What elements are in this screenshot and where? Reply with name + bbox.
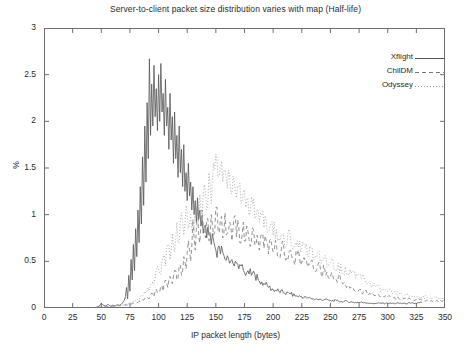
legend-item-odyssey: Odyssey — [355, 80, 445, 94]
y-tick-label: 2.5 — [2, 69, 36, 79]
y-tick-label: 2 — [2, 115, 36, 125]
legend-key-dotted-line-icon — [415, 86, 445, 87]
series-childm — [90, 203, 445, 308]
chart-title: Server-to-client packet size distributio… — [0, 4, 471, 14]
y-tick-label: 1 — [2, 209, 36, 219]
legend-label: Odyssey — [382, 80, 413, 89]
legend-item-childm: ChilDM — [355, 66, 445, 80]
legend-key-solid-line-icon — [415, 58, 445, 59]
series-xflight — [90, 59, 422, 308]
y-tick-label: 3 — [2, 22, 36, 32]
x-tick-label: 350 — [425, 312, 465, 322]
y-axis-label: % — [11, 145, 21, 185]
y-tick-label: 0.5 — [2, 255, 36, 265]
x-axis-label: IP packet length (bytes) — [0, 330, 471, 340]
chart-root: Server-to-client packet size distributio… — [0, 0, 471, 356]
legend-label: ChilDM — [387, 66, 413, 75]
legend-label: Xflight — [391, 52, 413, 61]
y-tick-label: 0 — [2, 302, 36, 312]
legend-item-xflight: Xflight — [355, 52, 445, 66]
chart-legend: Xflight ChilDM Odyssey — [355, 52, 445, 94]
legend-key-dashed-line-icon — [415, 72, 445, 73]
